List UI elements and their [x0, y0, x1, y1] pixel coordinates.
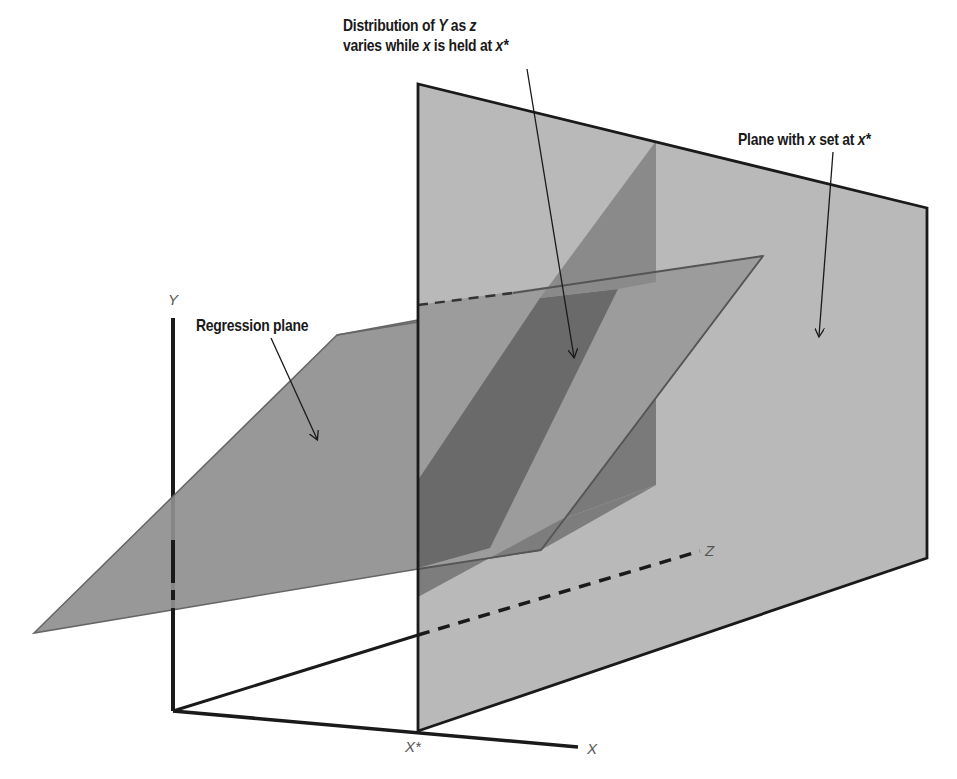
plane-label-text: set at	[816, 130, 858, 149]
var-x: x	[808, 130, 816, 149]
x-axis-line	[173, 711, 578, 747]
z-axis-line-solid	[173, 635, 418, 711]
y-axis-label: Y	[168, 292, 178, 308]
z-axis-label: Z	[705, 543, 714, 559]
distribution-label-line1: Distribution of Y as z	[343, 16, 508, 36]
var-x-star: x*	[495, 36, 508, 55]
plane-x-star-label: Plane with x set at x*	[738, 130, 871, 150]
distribution-label-text: is held at	[430, 36, 495, 55]
regression-plane-label: Regression plane	[196, 316, 308, 336]
distribution-label-text: as	[447, 16, 469, 35]
regression-plane-diagram	[0, 0, 957, 779]
plane-label-text: Plane with	[738, 130, 808, 149]
var-x-star: x*	[858, 130, 871, 149]
distribution-label-text: Distribution of	[343, 16, 438, 35]
var-y: Y	[438, 16, 447, 35]
var-z: z	[470, 16, 477, 35]
x-star-label: X*	[405, 739, 421, 755]
distribution-label-text: varies while	[343, 36, 423, 55]
distribution-label: Distribution of Y as z varies while x is…	[343, 16, 508, 56]
distribution-label-line2: varies while x is held at x*	[343, 36, 508, 56]
regression-label-text: Regression plane	[196, 316, 308, 335]
x-axis-label: X	[587, 741, 597, 757]
